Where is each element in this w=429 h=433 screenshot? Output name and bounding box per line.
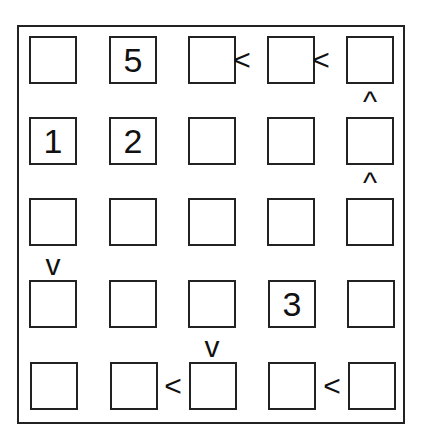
- cell-r3-c5[interactable]: [346, 198, 394, 246]
- cell-r2-c1[interactable]: 1: [29, 117, 77, 165]
- cell-r5-c5[interactable]: [348, 362, 396, 410]
- cell-r5-c4[interactable]: [268, 362, 316, 410]
- cell-r3-c4[interactable]: [267, 198, 315, 246]
- cell-r2-c5[interactable]: [346, 117, 394, 165]
- cell-r4-c3[interactable]: [188, 280, 236, 328]
- cell-r1-c2[interactable]: 5: [109, 36, 157, 84]
- less-than-r5-c2-c3: <: [158, 371, 188, 401]
- cell-r1-c1[interactable]: [29, 36, 77, 84]
- cell-r2-c3[interactable]: [188, 117, 236, 165]
- less-than-r1-c3-c4: <: [227, 45, 257, 75]
- cell-r5-c3[interactable]: [189, 362, 237, 410]
- cell-r4-c2[interactable]: [109, 280, 157, 328]
- less-than-r1-c4-c5: <: [306, 45, 336, 75]
- up-caret-c5-r1-r2: ^: [355, 87, 385, 117]
- less-than-r5-c4-c5: <: [317, 371, 347, 401]
- cell-r1-c5[interactable]: [346, 36, 394, 84]
- up-caret-c5-r2-r3: ^: [355, 168, 385, 198]
- cell-r2-c2[interactable]: 2: [109, 117, 157, 165]
- cell-r4-c4[interactable]: 3: [268, 280, 316, 328]
- down-v-c3-r4-r5: v: [197, 332, 227, 362]
- cell-r3-c2[interactable]: [109, 198, 157, 246]
- cell-r4-c5[interactable]: [347, 280, 395, 328]
- cell-r3-c3[interactable]: [188, 198, 236, 246]
- cell-r4-c1[interactable]: [29, 280, 77, 328]
- down-v-c1-r3-r4: v: [38, 250, 68, 280]
- cell-r2-c4[interactable]: [267, 117, 315, 165]
- cell-r3-c1[interactable]: [29, 198, 77, 246]
- cell-r5-c1[interactable]: [30, 362, 78, 410]
- cell-r5-c2[interactable]: [110, 362, 158, 410]
